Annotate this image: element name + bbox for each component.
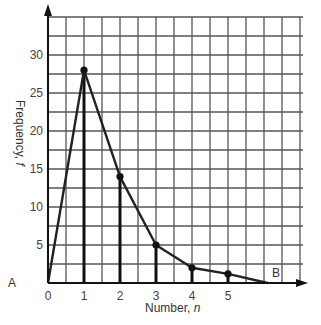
svg-text:25: 25 [30,86,44,100]
svg-text:2: 2 [117,289,124,303]
svg-text:0: 0 [45,289,52,303]
point-b-label: B [272,266,280,280]
svg-text:5: 5 [225,289,232,303]
point-a-label: A [8,276,16,290]
frequency-chart: 012345 51015202530 A B Number, n Frequen… [0,0,321,325]
svg-text:20: 20 [30,124,44,138]
x-axis-label: Number, n [145,301,201,315]
svg-text:1: 1 [81,289,88,303]
svg-text:5: 5 [36,238,43,252]
frequency-polygon [48,70,268,283]
svg-text:30: 30 [30,48,44,62]
svg-text:10: 10 [30,200,44,214]
y-axis-label: Frequency, f [13,100,27,167]
y-tick-labels: 51015202530 [30,48,44,252]
grid [48,17,303,283]
svg-text:15: 15 [30,162,44,176]
x-tick-labels: 012345 [45,289,232,303]
